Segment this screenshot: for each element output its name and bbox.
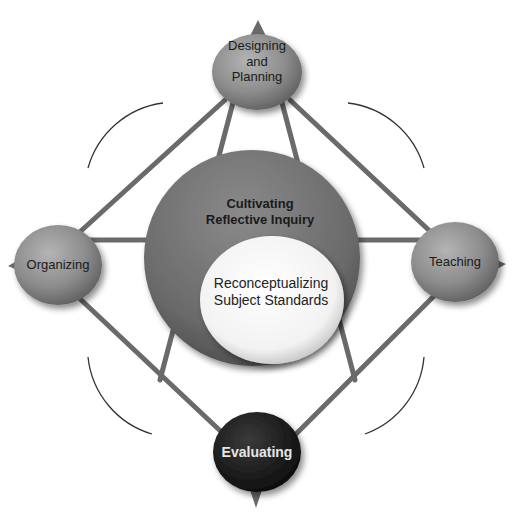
arc-top-left: [88, 103, 163, 168]
pointer-bottom: [250, 490, 262, 508]
center-outer-label-line-1: Cultivating: [180, 196, 340, 212]
node-top-label: Designing and Planning: [207, 38, 307, 85]
node-bottom-label: Evaluating: [207, 444, 307, 461]
center-inner-label-line-1: Reconceptualizing: [196, 275, 346, 292]
node-top-label-line-3: Planning: [207, 69, 307, 85]
arc-bottom-right: [365, 357, 424, 434]
node-top-label-line-2: and: [207, 54, 307, 70]
center-outer-label: Cultivating Reflective Inquiry: [180, 196, 340, 227]
node-left-label: Organizing: [13, 257, 103, 273]
center-outer-label-line-2: Reflective Inquiry: [180, 212, 340, 228]
pointer-top: [250, 20, 266, 36]
node-top-label-line-1: Designing: [207, 38, 307, 54]
center-inner-label: Reconceptualizing Subject Standards: [196, 275, 346, 309]
center-inner-label-line-2: Subject Standards: [196, 292, 346, 309]
arc-bottom-left: [88, 357, 152, 434]
node-right-label: Teaching: [410, 254, 500, 270]
arc-top-right: [348, 103, 424, 168]
